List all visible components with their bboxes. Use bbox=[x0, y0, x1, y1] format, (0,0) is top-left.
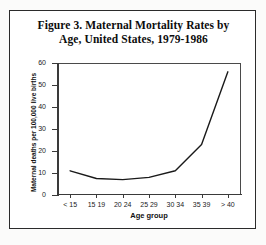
figure-title: Figure 3. Maternal Mortality Rates by Ag… bbox=[10, 19, 257, 46]
figure-container: Figure 3. Maternal Mortality Rates by Ag… bbox=[0, 0, 266, 245]
figure-title-line-1: Figure 3. Maternal Mortality Rates by bbox=[10, 19, 257, 33]
y-axis-title: Maternal deaths per 100,000 live births bbox=[30, 63, 37, 203]
figure-title-line-2: Age, United States, 1979-1986 bbox=[10, 33, 257, 47]
series-polyline bbox=[70, 72, 228, 180]
figure-border-box: Figure 3. Maternal Mortality Rates by Ag… bbox=[9, 10, 256, 229]
mortality-rate-line-series bbox=[57, 63, 241, 195]
x-axis-title: Age group bbox=[57, 211, 241, 220]
y-axis-tick bbox=[52, 195, 57, 196]
x-axis-tick-label: > 40 bbox=[208, 201, 248, 209]
